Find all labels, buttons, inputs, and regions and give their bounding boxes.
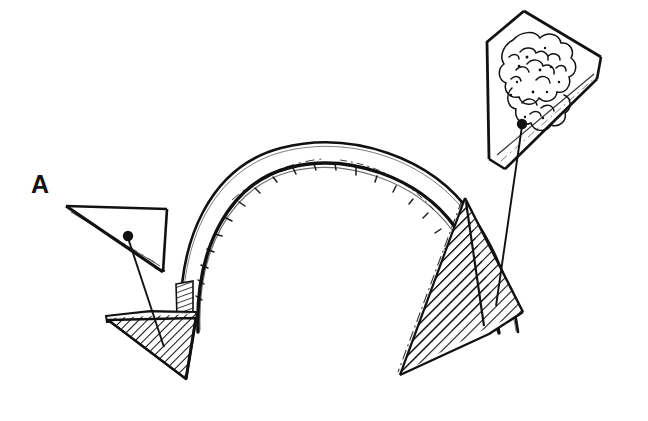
right-callout-dot — [517, 119, 527, 129]
left-detail-callout — [66, 206, 167, 272]
figure-label-a: A — [31, 172, 50, 197]
figure-drawing — [0, 0, 648, 421]
right-detail-callout — [487, 11, 601, 169]
right-hatched-wedge — [390, 190, 540, 385]
left-callout-dot — [123, 231, 133, 241]
figure-root: A — [0, 0, 648, 421]
